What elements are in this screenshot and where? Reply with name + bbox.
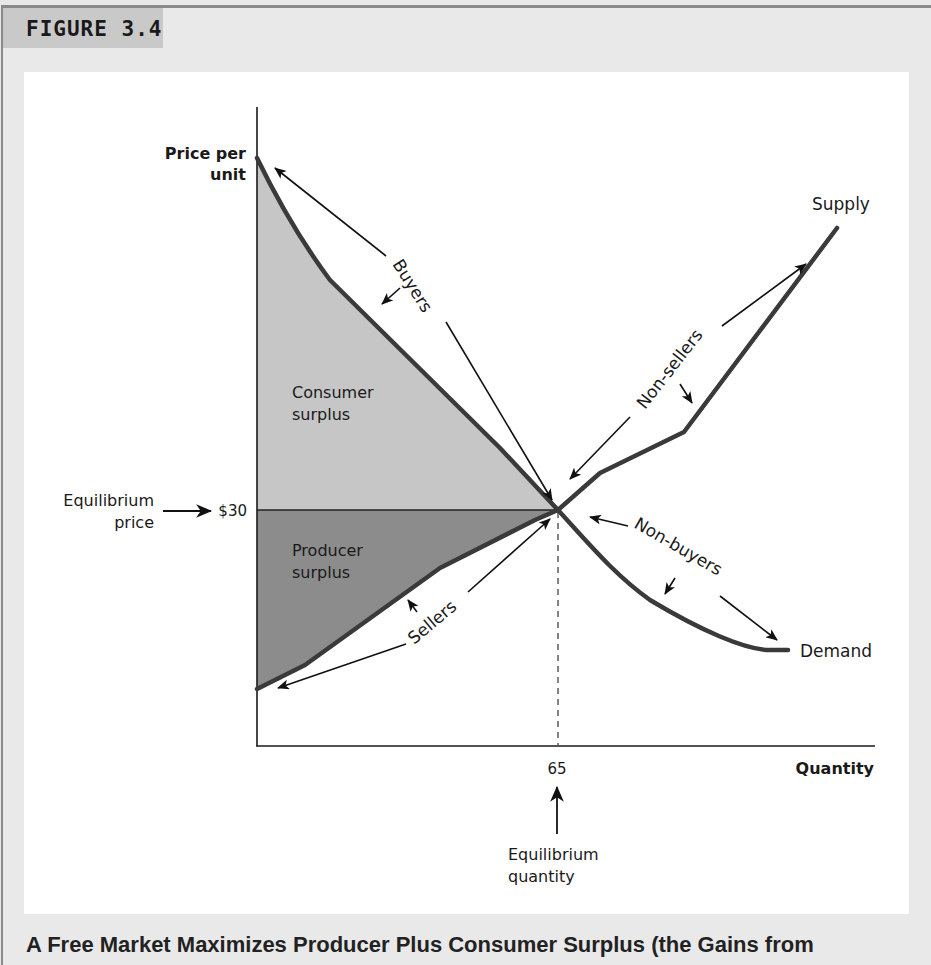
demand-label: Demand <box>800 641 872 661</box>
quantity-tick-label: 65 <box>547 760 566 778</box>
non-buyers-arrow-bottom <box>720 596 777 640</box>
supply-label: Supply <box>812 194 870 214</box>
sellers-label: Sellers <box>404 596 461 648</box>
y-axis-label-line1: Price per <box>165 144 246 163</box>
figure-caption: A Free Market Maximizes Producer Plus Co… <box>26 932 814 958</box>
producer-surplus-label-line1: Producer <box>292 541 363 560</box>
consumer-surplus-area <box>257 158 558 510</box>
non-buyers-label: Non-buyers <box>631 513 726 579</box>
equilibrium-price-label-line1: Equilibrium <box>63 491 154 510</box>
buyers-label: Buyers <box>389 256 437 317</box>
sellers-arrow-curve <box>408 600 417 612</box>
producer-surplus-area <box>257 510 558 689</box>
non-sellers-arrow-eq <box>570 417 630 479</box>
non-sellers-arrow-top <box>722 264 806 326</box>
equilibrium-quantity-label-line1: Equilibrium <box>508 845 599 864</box>
equilibrium-quantity-label-line2: quantity <box>508 867 575 886</box>
producer-surplus-label-line2: surplus <box>292 563 350 582</box>
x-axis-label: Quantity <box>796 759 875 778</box>
price-tick-label: $30 <box>218 502 247 520</box>
equilibrium-price-label-line2: price <box>114 513 154 532</box>
non-sellers-label: Non-sellers <box>632 325 706 412</box>
consumer-surplus-label-line2: surplus <box>292 405 350 424</box>
non-sellers-arrow-curve <box>680 384 692 403</box>
non-buyers-arrow-curve <box>665 578 675 594</box>
consumer-surplus-label-line1: Consumer <box>292 383 374 402</box>
buyers-arrow-curve <box>382 288 400 304</box>
y-axis-label-line2: unit <box>210 165 246 184</box>
non-buyers-arrow-eq <box>590 517 628 526</box>
